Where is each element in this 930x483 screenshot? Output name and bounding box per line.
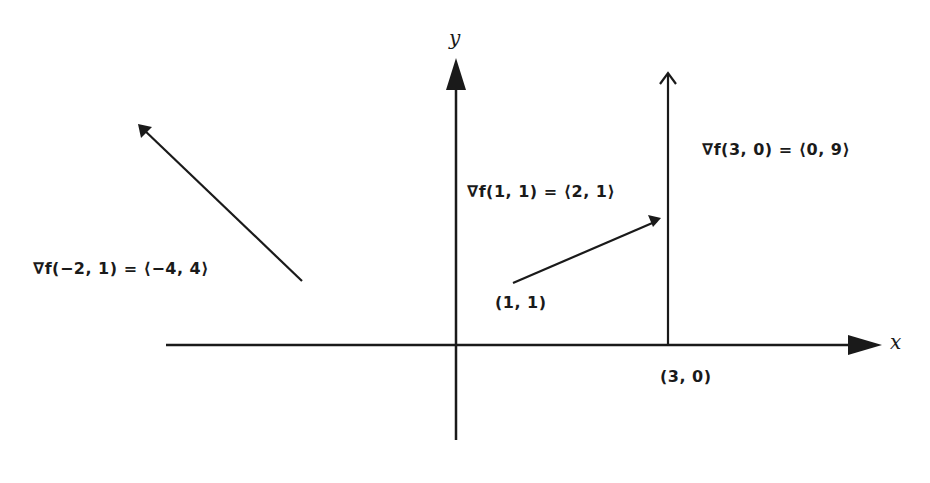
gradient-vector-3-0 bbox=[660, 73, 676, 345]
x-axis bbox=[166, 335, 882, 355]
y-axis bbox=[446, 58, 466, 440]
x-axis-arrowhead-icon bbox=[848, 335, 882, 355]
point-label-3-0: (3, 0) bbox=[660, 367, 712, 386]
gradient-vector-neg2-1 bbox=[138, 124, 302, 281]
gradient-vector-1-1 bbox=[513, 215, 661, 283]
y-axis-arrowhead-icon bbox=[446, 58, 466, 90]
y-axis-label: y bbox=[449, 26, 460, 50]
gradient-label-3-0: ∇f(3, 0) = ⟨0, 9⟩ bbox=[702, 140, 850, 159]
gradient-label-1-1: ∇f(1, 1) = ⟨2, 1⟩ bbox=[467, 182, 615, 201]
x-axis-label: x bbox=[890, 330, 901, 354]
diagram-canvas bbox=[0, 0, 930, 483]
point-label-1-1: (1, 1) bbox=[495, 293, 547, 312]
gradient-label-neg2-1: ∇f(−2, 1) = ⟨−4, 4⟩ bbox=[33, 259, 209, 278]
